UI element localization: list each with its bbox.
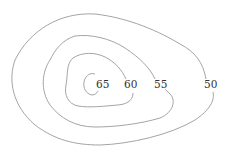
contour-label-65: 65: [96, 78, 109, 90]
contour-label-50: 50: [204, 78, 217, 90]
contour-line-50: [12, 14, 214, 145]
contour-map: 65 60 55 50: [0, 0, 226, 158]
contour-label-60: 60: [124, 78, 137, 90]
contour-label-55: 55: [154, 78, 167, 90]
